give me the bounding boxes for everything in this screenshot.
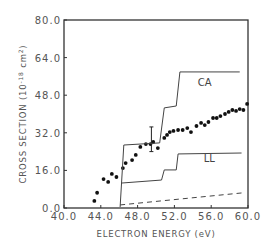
data-point [130,158,134,162]
data-point [211,116,215,120]
ca-curve [120,72,240,207]
y-tick-label: 80.0 [35,15,61,26]
ll-curve [121,153,242,183]
data-point [242,108,246,112]
data-point [115,175,119,179]
x-tick-label: 56.0 [198,211,224,222]
y-tick-label: 32.0 [35,128,61,139]
data-point [95,191,99,195]
data-point [203,123,207,127]
x-tick-label: 44.0 [88,211,114,222]
tick-labels: 0.016.032.048.064.080.040.044.048.052.05… [35,15,261,222]
y-tick-label: 48.0 [35,90,61,101]
curve-label-ca: CA [198,77,212,88]
data-point [106,180,110,184]
data-series [92,72,249,207]
data-point [207,120,211,124]
plot-axes [64,20,248,208]
data-point [156,146,160,150]
plot-frame [64,20,248,208]
x-tick-label: 60.0 [235,211,261,222]
x-axis-label: ELECTRON ENERGY (eV) [97,229,216,239]
y-axis-label: CROSS SECTION (10-18 cm2) [17,45,28,184]
data-point [176,128,180,132]
data-point [92,199,96,203]
data-point [219,114,223,118]
dashed-curve [120,193,241,205]
curve-label-ll: LL [204,153,216,164]
data-point [245,102,249,106]
data-point [168,130,172,134]
data-point [162,136,166,140]
data-point [230,108,234,112]
x-tick-label: 48.0 [124,211,150,222]
data-point [185,126,189,130]
data-point [134,153,138,157]
data-point [124,161,128,165]
data-point [234,109,238,113]
data-point [181,128,185,132]
y-tick-label: 16.0 [35,165,61,176]
cross-section-chart: 0.016.032.048.064.080.040.044.048.052.05… [0,0,271,248]
data-point [238,107,242,111]
x-tick-label: 52.0 [161,211,187,222]
data-point [227,110,231,114]
data-point [138,145,142,149]
data-point [195,124,199,128]
y-tick-label: 64.0 [35,53,61,64]
data-point [189,130,193,134]
data-point [215,116,219,120]
curve-labels: CALL [198,77,216,164]
data-point [223,112,227,116]
data-point [172,129,176,133]
x-tick-label: 40.0 [51,211,77,222]
data-point [165,133,169,137]
data-point [102,177,106,181]
data-point [110,172,114,176]
data-point [199,121,203,125]
